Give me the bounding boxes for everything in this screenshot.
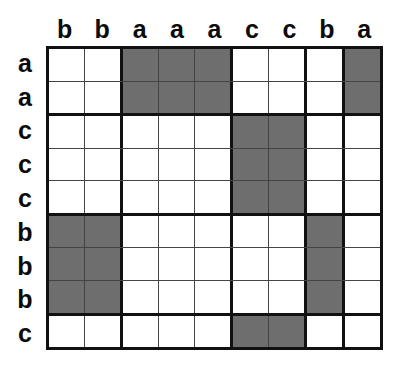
grid-cell-r2-c8[interactable]: [307, 82, 345, 114]
grid-cell-r9-c5[interactable]: [195, 316, 233, 348]
grid-cell-r5-c9[interactable]: [345, 181, 380, 213]
grid-cell-r8-c2[interactable]: [85, 281, 123, 313]
grid-cell-r7-c6[interactable]: [233, 248, 269, 280]
grid-cell-r2-c9[interactable]: [345, 82, 380, 114]
grid-cell-r9-c3[interactable]: [123, 316, 159, 348]
grid-cell-r6-c8[interactable]: [307, 216, 345, 248]
row-label-column: aacccbbbc: [6, 46, 44, 350]
grid-table: [46, 46, 383, 350]
grid-cell-r2-c2[interactable]: [85, 82, 123, 114]
grid-cell-r1-c6[interactable]: [233, 49, 269, 81]
grid-cell-r6-c1[interactable]: [49, 216, 85, 248]
grid-cell-r5-c5[interactable]: [195, 181, 233, 213]
grid-cell-r2-c6[interactable]: [233, 82, 269, 114]
grid-cell-r4-c2[interactable]: [85, 149, 123, 181]
grid-cell-r6-c7[interactable]: [269, 216, 307, 248]
grid-cell-r3-c5[interactable]: [195, 116, 233, 148]
grid-cell-r5-c7[interactable]: [269, 181, 307, 213]
grid-cell-r7-c2[interactable]: [85, 248, 123, 280]
grid-cell-r4-c9[interactable]: [345, 149, 380, 181]
grid-cell-r4-c3[interactable]: [123, 149, 159, 181]
grid-cell-r3-c4[interactable]: [159, 116, 195, 148]
grid-cell-r1-c4[interactable]: [159, 49, 195, 81]
grid-cell-r6-c4[interactable]: [159, 216, 195, 248]
grid-row: [49, 216, 380, 249]
grid-cell-r6-c6[interactable]: [233, 216, 269, 248]
grid-cell-r3-c2[interactable]: [85, 116, 123, 148]
grid-cell-r3-c9[interactable]: [345, 116, 380, 148]
grid-cell-r5-c8[interactable]: [307, 181, 345, 213]
grid-cell-r6-c2[interactable]: [85, 216, 123, 248]
grid-cell-r7-c1[interactable]: [49, 248, 85, 280]
grid-cell-r4-c7[interactable]: [269, 149, 307, 181]
grid-cell-r2-c4[interactable]: [159, 82, 195, 114]
column-header-6: c: [233, 10, 270, 42]
grid-cell-r9-c7[interactable]: [269, 316, 307, 348]
column-header-7: c: [271, 10, 308, 42]
grid-row: [49, 248, 380, 281]
grid-cell-r8-c4[interactable]: [159, 281, 195, 313]
grid-cell-r6-c5[interactable]: [195, 216, 233, 248]
grid-cell-r6-c9[interactable]: [345, 216, 380, 248]
column-header-8: b: [308, 10, 345, 42]
row-header-2: a: [6, 80, 44, 114]
grid-cell-r4-c8[interactable]: [307, 149, 345, 181]
grid-cell-r1-c3[interactable]: [123, 49, 159, 81]
grid-cell-r9-c6[interactable]: [233, 316, 269, 348]
grid-cell-r4-c6[interactable]: [233, 149, 269, 181]
grid-cell-r5-c1[interactable]: [49, 181, 85, 213]
grid-cell-r1-c5[interactable]: [195, 49, 233, 81]
grid-cell-r7-c5[interactable]: [195, 248, 233, 280]
grid-cell-r9-c9[interactable]: [345, 316, 380, 348]
column-header-1: b: [46, 10, 83, 42]
grid-row: [49, 316, 380, 348]
column-header-row: bbaaaccba: [46, 10, 383, 42]
grid-cell-r9-c8[interactable]: [307, 316, 345, 348]
grid-cell-r5-c6[interactable]: [233, 181, 269, 213]
grid-cell-r8-c5[interactable]: [195, 281, 233, 313]
column-header-4: a: [158, 10, 195, 42]
grid-cell-r2-c3[interactable]: [123, 82, 159, 114]
grid-cell-r7-c9[interactable]: [345, 248, 380, 280]
grid-cell-r4-c1[interactable]: [49, 149, 85, 181]
grid-cell-r8-c7[interactable]: [269, 281, 307, 313]
grid-cell-r7-c7[interactable]: [269, 248, 307, 280]
grid-cell-r2-c5[interactable]: [195, 82, 233, 114]
grid-cell-r6-c3[interactable]: [123, 216, 159, 248]
grid-cell-r5-c3[interactable]: [123, 181, 159, 213]
grid-cell-r2-c1[interactable]: [49, 82, 85, 114]
grid-cell-r3-c8[interactable]: [307, 116, 345, 148]
grid-cell-r3-c1[interactable]: [49, 116, 85, 148]
grid-cell-r8-c8[interactable]: [307, 281, 345, 313]
grid-row: [49, 116, 380, 149]
grid-cell-r1-c7[interactable]: [269, 49, 307, 81]
grid-row: [49, 82, 380, 117]
grid-cell-r1-c1[interactable]: [49, 49, 85, 81]
row-header-6: b: [6, 215, 44, 249]
grid-cell-r7-c4[interactable]: [159, 248, 195, 280]
grid-cell-r8-c6[interactable]: [233, 281, 269, 313]
grid-cell-r2-c7[interactable]: [269, 82, 307, 114]
grid-cell-r4-c5[interactable]: [195, 149, 233, 181]
grid-row: [49, 49, 380, 82]
column-header-9: a: [346, 10, 383, 42]
grid-cell-r3-c6[interactable]: [233, 116, 269, 148]
grid-cell-r8-c1[interactable]: [49, 281, 85, 313]
grid-cell-r4-c4[interactable]: [159, 149, 195, 181]
grid-cell-r7-c8[interactable]: [307, 248, 345, 280]
row-header-7: b: [6, 249, 44, 283]
grid-cell-r9-c4[interactable]: [159, 316, 195, 348]
grid-cell-r8-c3[interactable]: [123, 281, 159, 313]
grid-cell-r7-c3[interactable]: [123, 248, 159, 280]
grid-cell-r1-c2[interactable]: [85, 49, 123, 81]
grid-cell-r3-c3[interactable]: [123, 116, 159, 148]
grid-cell-r1-c9[interactable]: [345, 49, 380, 81]
grid-cell-r9-c2[interactable]: [85, 316, 123, 348]
grid-cell-r8-c9[interactable]: [345, 281, 380, 313]
grid-cell-r1-c8[interactable]: [307, 49, 345, 81]
grid-cell-r9-c1[interactable]: [49, 316, 85, 348]
grid-cell-r3-c7[interactable]: [269, 116, 307, 148]
grid-cell-r5-c4[interactable]: [159, 181, 195, 213]
row-header-3: c: [6, 114, 44, 148]
grid-cell-r5-c2[interactable]: [85, 181, 123, 213]
